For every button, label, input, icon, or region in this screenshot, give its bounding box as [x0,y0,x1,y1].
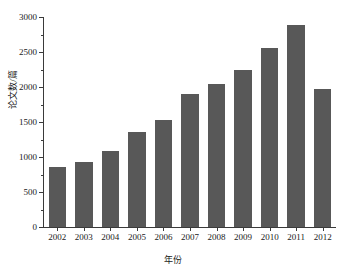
bar [128,132,146,227]
x-tick-label: 2002 [48,232,66,242]
x-tick-label: 2008 [208,232,226,242]
x-tick-label: 2004 [101,232,119,242]
y-tick-label: 2500 [19,47,37,57]
y-minor-tick-mark [41,35,43,36]
x-tick-label: 2010 [261,232,279,242]
y-tick-label: 2000 [19,82,37,92]
x-tick-mark [270,228,271,231]
y-minor-tick-mark [41,175,43,176]
y-tick-mark [39,192,43,193]
bar [49,167,67,227]
x-tick-mark [110,228,111,231]
x-tick-label: 2005 [128,232,146,242]
x-tick-label: 2011 [287,232,305,242]
y-tick-mark [39,17,43,18]
plot-area: 050010001500200025003000 200220032004200… [43,17,335,227]
x-tick-label: 2009 [234,232,252,242]
bar [75,162,93,227]
bar [261,48,279,227]
x-tick-label: 2012 [314,232,332,242]
x-tick-mark [84,228,85,231]
x-tick-label: 2006 [154,232,172,242]
y-tick-mark [39,227,43,228]
y-tick-label: 3000 [19,12,37,22]
y-minor-tick-mark [41,105,43,106]
y-minor-tick-mark [41,70,43,71]
x-tick-mark [243,228,244,231]
y-tick-label: 1500 [19,117,37,127]
x-tick-mark [163,228,164,231]
bar [155,120,173,227]
bar [234,70,252,227]
y-tick-label: 500 [24,187,38,197]
y-tick-mark [39,157,43,158]
y-minor-tick-mark [41,140,43,141]
y-tick-label: 1000 [19,152,37,162]
bar-chart-figure: 论文数/篇 050010001500200025003000 200220032… [0,0,346,273]
x-tick-label: 2007 [181,232,199,242]
x-axis-title: 年份 [0,253,346,266]
x-tick-mark [217,228,218,231]
bar [102,151,120,227]
bar [287,25,305,227]
y-tick-mark [39,52,43,53]
x-tick-mark [137,228,138,231]
x-tick-mark [296,228,297,231]
bar [208,84,226,227]
bar [181,94,199,227]
x-tick-mark [190,228,191,231]
y-tick-label: 0 [33,222,38,232]
y-axis-title: 论文数/篇 [6,40,19,140]
y-tick-mark [39,87,43,88]
x-tick-label: 2003 [75,232,93,242]
bars-group [44,17,336,227]
x-tick-mark [323,228,324,231]
y-minor-tick-mark [41,210,43,211]
x-tick-mark [57,228,58,231]
bar [314,89,332,227]
y-tick-mark [39,122,43,123]
